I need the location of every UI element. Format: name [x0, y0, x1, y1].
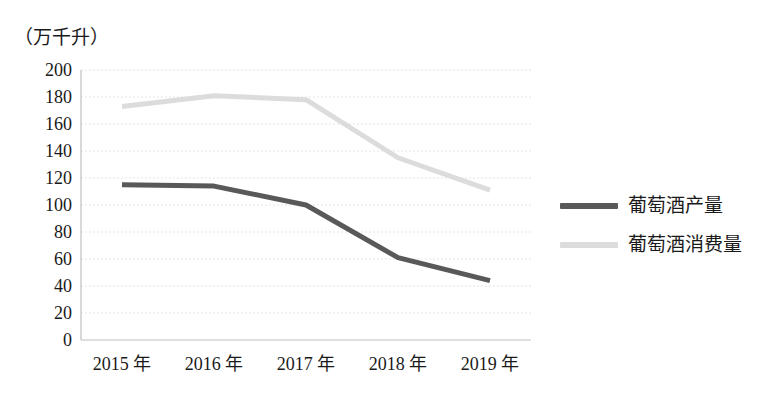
y-axis-tick: 80 — [0, 223, 72, 241]
legend-label: 葡萄酒产量 — [628, 196, 723, 215]
y-axis-tick: 160 — [0, 115, 72, 133]
series-line — [122, 185, 490, 281]
y-axis-tick: 140 — [0, 142, 72, 160]
legend-color-swatch — [560, 242, 618, 248]
y-axis-unit-label: （万千升） — [14, 22, 109, 49]
legend-label: 葡萄酒消费量 — [628, 235, 742, 254]
series-lines — [122, 96, 490, 281]
y-axis-tick-labels: 200180160140120100806040200 — [0, 70, 72, 340]
x-axis-tick-labels: 2015 年2016 年2017 年2018 年2019 年 — [81, 352, 531, 382]
y-axis-tick: 20 — [0, 304, 72, 322]
legend-item[interactable]: 葡萄酒产量 — [560, 186, 775, 225]
legend-color-swatch — [560, 203, 618, 209]
line-chart: （万千升） 200180160140120100806040200 2015 年… — [0, 0, 781, 402]
legend-item[interactable]: 葡萄酒消费量 — [560, 225, 775, 264]
y-axis-tick: 60 — [0, 250, 72, 268]
series-line — [122, 96, 490, 190]
y-axis-tick: 180 — [0, 88, 72, 106]
y-axis-tick: 100 — [0, 196, 72, 214]
y-axis-tick: 40 — [0, 277, 72, 295]
y-axis-tick: 200 — [0, 61, 72, 79]
chart-legend: 葡萄酒产量葡萄酒消费量 — [560, 186, 775, 264]
plot-svg — [81, 70, 531, 340]
y-axis-tick: 120 — [0, 169, 72, 187]
plot-area — [81, 70, 531, 340]
y-axis-tick: 0 — [0, 331, 72, 349]
x-axis-tick: 2019 年 — [435, 352, 545, 376]
